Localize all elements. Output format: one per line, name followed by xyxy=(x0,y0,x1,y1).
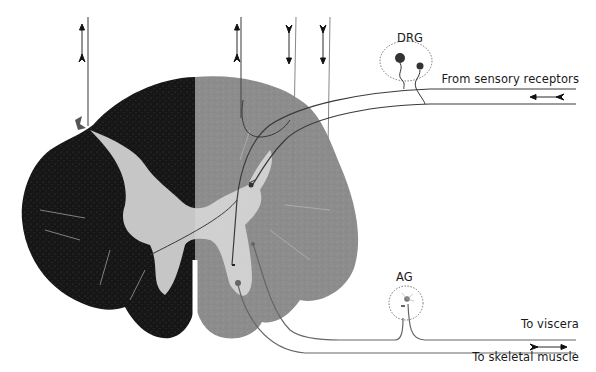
drg-neuron-large xyxy=(395,53,405,63)
descending-tract-line-2 xyxy=(328,17,330,150)
spinal-cord-diagram: DRG From sensory receptors AG To viscera… xyxy=(0,0,596,372)
drg-neuron-small xyxy=(417,63,424,70)
up-arrow-icon xyxy=(79,24,85,62)
left-arrow-icon xyxy=(530,94,564,100)
spinal-cord-section xyxy=(22,76,358,338)
drg-axon-1 xyxy=(400,63,404,89)
ag-label: AG xyxy=(396,270,413,284)
down-arrow-icon xyxy=(286,25,292,64)
from-sensory-receptors-label: From sensory receptors xyxy=(442,72,579,86)
to-viscera-label: To viscera xyxy=(521,317,579,331)
up-arrow-icon xyxy=(234,24,240,62)
autonomic-ganglion xyxy=(389,286,423,320)
drg-axon-2 xyxy=(415,70,425,104)
drg-boundary xyxy=(380,41,432,81)
to-skeletal-muscle-label: To skeletal muscle xyxy=(472,350,579,364)
synaptic-terminal xyxy=(232,264,235,266)
ag-boundary xyxy=(389,286,423,320)
dorsal-root-ganglion xyxy=(380,41,432,104)
tract-arrows xyxy=(79,24,326,64)
dorsal-rootlet xyxy=(75,116,86,130)
down-arrow-icon xyxy=(320,25,326,64)
diagram-canvas xyxy=(0,0,596,372)
drg-label: DRG xyxy=(397,31,423,45)
